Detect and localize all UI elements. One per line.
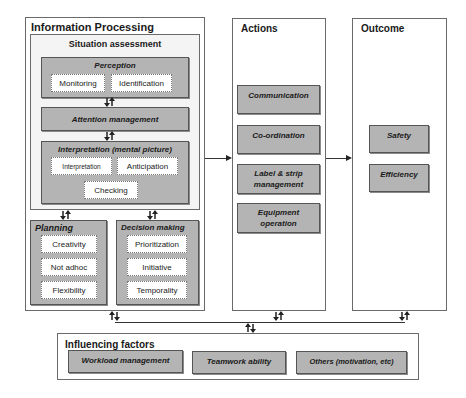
outcome-title: Outcome — [361, 23, 404, 34]
bidirectional-arrow-icon — [104, 97, 115, 107]
attention-management-box: Attention management — [41, 107, 189, 131]
perception-title: Perception — [42, 61, 188, 70]
outcome-item-efficiency: Efficiency — [369, 164, 429, 192]
feedback-bus-line — [115, 322, 405, 323]
interpretation-item-checking: Checking — [84, 181, 138, 199]
factor-others: Others (motivation, etc) — [296, 351, 407, 374]
bidirectional-arrow-icon — [273, 311, 284, 321]
planning-title: Planning — [35, 223, 73, 233]
actions-to-outcome-line — [326, 158, 347, 159]
attention-management-label: Attention management — [72, 114, 159, 125]
planning-item-not-adhoc: Not adhoc — [41, 258, 97, 276]
action-item-coordination: Co-ordination — [237, 125, 320, 154]
perception-item-monitoring: Monitoring — [51, 74, 105, 92]
influencing-factors-title: Influencing factors — [65, 339, 154, 350]
decision-item-temporality: Temporality — [127, 281, 187, 299]
bidirectional-arrow-icon — [399, 311, 410, 321]
ip-to-actions-line — [205, 158, 227, 159]
interpretation-item-interpretation: Interpretation — [51, 157, 112, 175]
action-item-label-strip-management: Label & strip management — [237, 164, 320, 194]
decision-item-prioritization: Prioritization — [127, 235, 187, 253]
bidirectional-arrow-icon — [245, 323, 256, 333]
interpretation-title: Interpretation (mental picture) — [42, 145, 188, 154]
factor-workload-management: Workload management — [68, 350, 183, 373]
outcome-item-safety: Safety — [369, 125, 429, 153]
decision-item-initiative: Initiative — [127, 258, 187, 276]
bidirectional-arrow-icon — [60, 210, 71, 220]
action-item-communication: Communication — [237, 85, 320, 114]
situation-assessment-title: Situation assessment — [31, 39, 199, 49]
perception-item-identification: Identification — [111, 74, 172, 92]
actions-title: Actions — [241, 23, 278, 34]
decision-making-title: Decision making — [121, 223, 185, 232]
planning-item-creativity: Creativity — [41, 235, 97, 253]
bidirectional-arrow-icon — [104, 131, 115, 141]
information-processing-title: Information Processing — [31, 21, 154, 33]
bidirectional-arrow-icon — [147, 210, 158, 220]
bidirectional-arrow-icon — [109, 311, 120, 321]
planning-item-flexibility: Flexibility — [41, 281, 97, 299]
action-item-equipment-operation: Equipment operation — [237, 203, 320, 233]
interpretation-item-anticipation: Anticipation — [117, 157, 178, 175]
factor-teamwork-ability: Teamwork ability — [192, 351, 286, 374]
